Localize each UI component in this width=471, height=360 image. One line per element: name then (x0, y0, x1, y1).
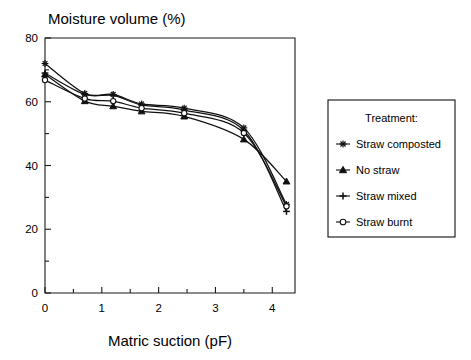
legend-item-label: Straw mixed (356, 190, 417, 202)
x-axis-tick-label: 0 (42, 302, 48, 314)
data-point-open-circle (111, 98, 116, 103)
y-axis-tick-label: 0 (32, 287, 38, 299)
data-point-open-circle (42, 77, 47, 82)
y-axis-tick-label: 20 (25, 223, 38, 235)
x-axis-title: Matric suction (pF) (108, 332, 232, 349)
series-no-straw (42, 71, 290, 184)
legend: Treatment:Straw compostedNo strawStraw m… (328, 100, 455, 237)
legend-item-label: No straw (356, 164, 399, 176)
y-axis-tick-label: 40 (25, 160, 38, 172)
data-point-filled-triangle (240, 136, 247, 142)
legend-title: Treatment: (365, 112, 418, 124)
x-axis-tick-label: 3 (212, 302, 218, 314)
series-straw-composted (42, 60, 290, 208)
moisture-retention-chart: Moisture volume (%)02040608001234Matric … (0, 0, 471, 360)
plot-frame (45, 38, 295, 293)
data-point-open-circle (139, 105, 144, 110)
y-axis-tick-label: 60 (25, 96, 38, 108)
data-point-open-circle (340, 219, 346, 225)
data-point-plus-cross (110, 92, 117, 99)
x-axis-tick-label: 2 (155, 302, 161, 314)
data-point-open-circle (241, 130, 246, 135)
legend-item-label: Straw burnt (356, 216, 412, 228)
legend-item-label: Straw composted (356, 138, 441, 150)
x-axis-tick-label: 1 (99, 302, 105, 314)
data-point-open-circle (182, 111, 187, 116)
chart-figure: Moisture volume (%)02040608001234Matric … (0, 0, 471, 360)
data-point-open-circle (82, 96, 87, 101)
series-straw-burnt (42, 77, 289, 209)
chart-title: Moisture volume (%) (48, 10, 186, 27)
data-point-open-circle (284, 204, 289, 209)
y-axis-tick-label: 80 (25, 32, 38, 44)
x-axis-tick-label: 4 (269, 302, 276, 314)
